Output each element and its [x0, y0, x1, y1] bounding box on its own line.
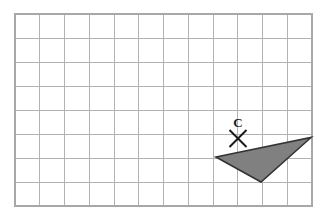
figure-canvas: C [0, 0, 326, 217]
figure-svg: C [0, 0, 326, 217]
point-label-c: C [233, 115, 242, 130]
